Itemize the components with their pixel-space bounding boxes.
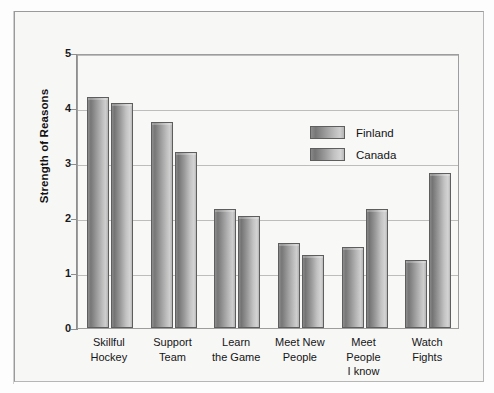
y-axis-tick-label: 4	[15, 102, 71, 114]
y-axis-tick-label: 1	[15, 267, 71, 279]
gridline	[78, 55, 458, 56]
bar-canada-3	[302, 255, 324, 328]
bar-highlight	[367, 210, 387, 212]
bar-finland-2	[214, 209, 236, 328]
bar-highlight	[406, 261, 426, 263]
bar-highlight	[215, 210, 235, 212]
y-axis-tick-label: 3	[15, 157, 71, 169]
y-axis-tick-label: 2	[15, 212, 71, 224]
bar-chart: Strength of Reasons 012345 FinlandCanada…	[15, 12, 485, 383]
x-axis-label: Meet New People	[268, 335, 332, 364]
gridline	[78, 110, 458, 111]
bar-canada-1	[175, 152, 197, 328]
bar-finland-5	[405, 260, 427, 328]
y-axis-tick-mark	[71, 274, 76, 275]
bar-highlight	[430, 174, 450, 176]
bar-finland-3	[278, 243, 300, 328]
figure-frame: Strength of Reasons 012345 FinlandCanada…	[14, 11, 484, 382]
bar-canada-0	[111, 103, 133, 329]
x-axis-label: Learn the Game	[204, 335, 268, 364]
legend-item: Canada	[310, 145, 430, 164]
gridline	[78, 220, 458, 221]
bar-highlight	[279, 244, 299, 246]
y-axis-tick-mark	[71, 54, 76, 55]
legend-label: Finland	[356, 127, 394, 139]
legend-swatch-canada	[310, 148, 345, 161]
bar-finland-1	[151, 122, 173, 328]
bar-highlight	[303, 256, 323, 258]
bar-highlight	[88, 98, 108, 100]
chart-page: Strength of Reasons 012345 FinlandCanada…	[0, 0, 494, 393]
bar-highlight	[176, 153, 196, 155]
y-axis-tick-mark	[71, 329, 76, 330]
bar-highlight	[343, 248, 363, 250]
x-axis-label: Watch Fights	[395, 335, 459, 364]
y-axis-tick-mark	[71, 109, 76, 110]
bar-finland-4	[342, 247, 364, 328]
bar-highlight	[239, 217, 259, 219]
bar-canada-2	[238, 216, 260, 328]
bar-canada-5	[429, 173, 451, 328]
y-axis-tick-mark	[71, 219, 76, 220]
bar-finland-0	[87, 97, 109, 328]
legend-swatch-finland	[310, 126, 345, 139]
x-axis-label: Meet People I know	[332, 335, 396, 379]
bar-highlight	[152, 123, 172, 125]
plot-area: FinlandCanada	[77, 54, 459, 329]
legend-item: Finland	[310, 123, 430, 142]
bar-highlight	[112, 104, 132, 106]
legend-label: Canada	[356, 149, 396, 161]
x-axis-label: Skillful Hockey	[77, 335, 141, 364]
chart-legend: FinlandCanada	[310, 123, 430, 167]
y-axis-tick-label: 5	[15, 47, 71, 59]
gridline	[78, 275, 458, 276]
y-axis-tick-mark	[71, 164, 76, 165]
y-axis-tick-label: 0	[15, 322, 71, 334]
y-axis-title: Strength of Reasons	[38, 81, 50, 211]
bar-canada-4	[366, 209, 388, 328]
x-axis-label: Support Team	[141, 335, 205, 364]
